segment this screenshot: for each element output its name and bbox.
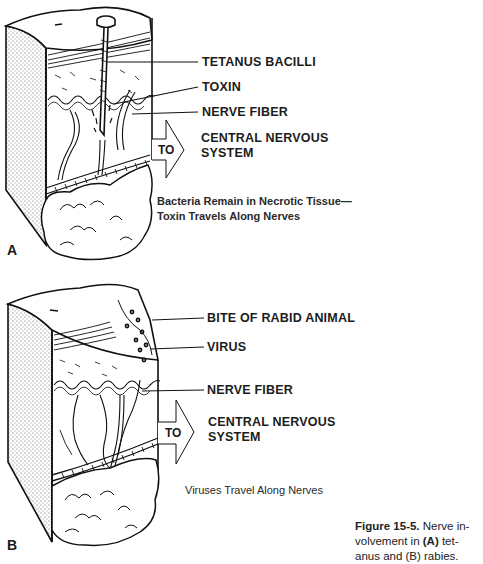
arrow-to-text-a: TO [158,143,174,157]
label-tetanus-bacilli: TETANUS BACILLI [202,55,316,69]
label-nerve-fiber-b: NERVE FIBER [207,383,293,397]
caption-line2-a: (A) [423,535,439,547]
label-bite-of-rabid-animal: BITE OF RABID ANIMAL [207,311,355,325]
figure-caption: Figure 15-5. Nerve in- volvement in (A) … [355,519,483,564]
arrow-to-text-b: TO [165,426,181,440]
caption-line2-post: tet- [439,535,459,547]
panel-letter-b: B [7,537,17,553]
caption-line1: Nerve in- [420,520,470,532]
description-a-line2: Toxin Travels Along Nerves [157,210,300,222]
label-cns-b-line2: SYSTEM [208,430,261,444]
panel-letter-a: A [7,242,17,258]
label-toxin: TOXIN [202,80,241,94]
caption-line2-pre: volvement in [355,535,423,547]
caption-line3: anus and (B) rabies. [355,550,459,562]
label-cns-a-line1: CENTRAL NERVOUS [201,131,329,145]
figure-number: Figure 15-5. [355,520,420,532]
label-cns-a-line2: SYSTEM [201,146,254,160]
block-b [8,284,194,545]
label-virus: VIRUS [207,340,246,354]
description-b: Viruses Travel Along Nerves [185,484,323,496]
description-a-line1: Bacteria Remain in Necrotic Tissue— [157,195,352,207]
label-nerve-fiber-a: NERVE FIBER [202,105,288,119]
label-cns-b-line1: CENTRAL NERVOUS [208,415,336,429]
